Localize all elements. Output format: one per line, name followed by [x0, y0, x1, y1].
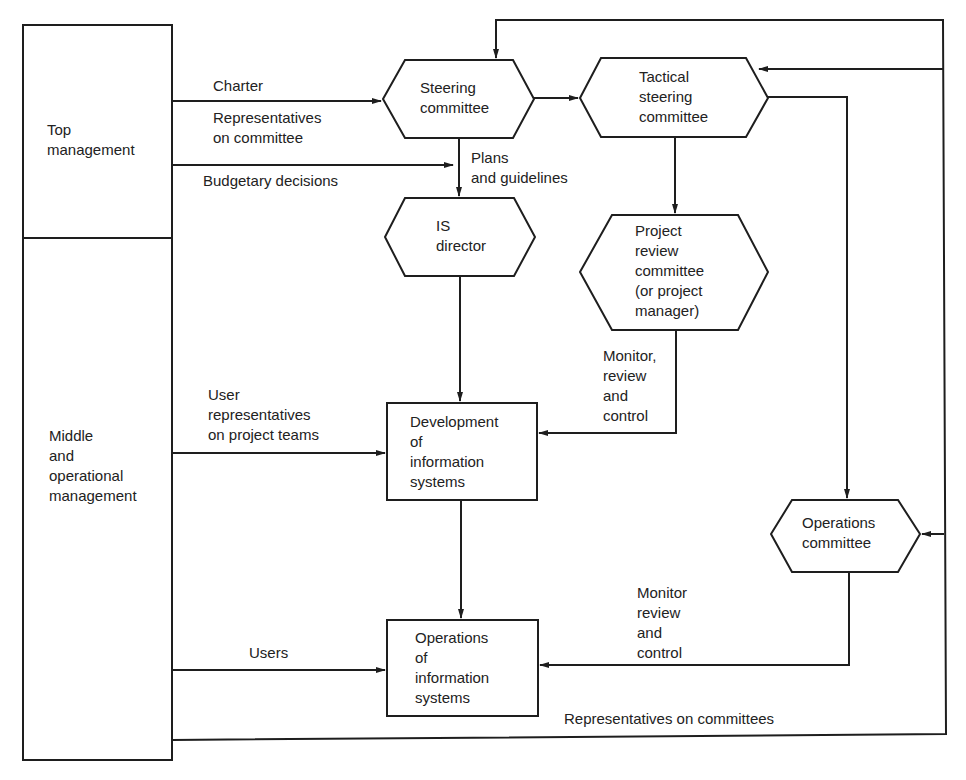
- is-director-label: IS director: [436, 216, 486, 256]
- development-label: Development of information systems: [410, 412, 498, 492]
- steering-committee-label: Steering committee: [420, 78, 489, 118]
- plans-label: Plans and guidelines: [471, 148, 568, 188]
- tactical-steering-label: Tactical steering committee: [639, 67, 708, 127]
- budgetary-label: Budgetary decisions: [203, 171, 338, 191]
- top-management-label: Top management: [47, 120, 135, 160]
- edge-ops-committee-to-operations: [540, 572, 849, 665]
- users-label: Users: [249, 643, 288, 663]
- charter-label: Charter: [213, 76, 263, 96]
- reps-on-committee-label: Representatives on committee: [213, 108, 321, 148]
- operations-committee-label: Operations committee: [802, 513, 875, 553]
- monitor-project-label: Monitor, review and control: [603, 346, 656, 426]
- middle-management-label: Middle and operational management: [49, 426, 137, 506]
- operations-is-label: Operations of information systems: [415, 628, 489, 708]
- project-review-label: Project review committee (or project man…: [635, 221, 704, 321]
- monitor-ops-label: Monitor review and control: [637, 583, 687, 663]
- edge-tactical-to-ops-committee: [768, 97, 847, 498]
- user-reps-label: User representatives on project teams: [208, 385, 319, 445]
- reps-on-committees-label: Representatives on committees: [564, 709, 774, 729]
